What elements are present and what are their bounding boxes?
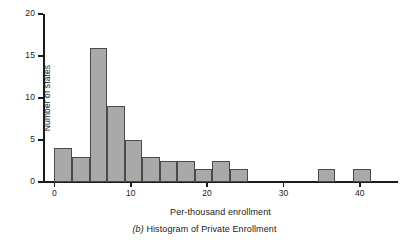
x-tick-label: 30 <box>271 189 295 198</box>
histogram-bar <box>195 169 213 182</box>
y-tick-label: 0 <box>13 177 35 186</box>
y-tick-label: 5 <box>13 135 35 144</box>
y-tick-label: 15 <box>13 51 35 60</box>
histogram-bar <box>107 106 125 182</box>
histogram-bar <box>230 169 248 182</box>
x-tick-mark <box>130 182 132 187</box>
histogram-bar <box>125 140 143 182</box>
y-tick-label: 10 <box>13 93 35 102</box>
histogram-bar <box>72 157 90 182</box>
x-tick-mark <box>206 182 208 187</box>
y-tick-label: 20 <box>13 9 35 18</box>
x-tick-label: 0 <box>42 189 66 198</box>
plot-area: 05101520 010203040 Number of states Per-… <box>43 14 398 182</box>
x-tick-label: 20 <box>195 189 219 198</box>
histogram-bar <box>353 169 371 182</box>
histogram-bar <box>318 169 336 182</box>
histogram-bar <box>90 48 108 182</box>
x-tick-label: 10 <box>119 189 143 198</box>
y-axis-title: Number of states <box>41 14 53 182</box>
x-tick-mark <box>283 182 285 187</box>
x-tick-mark <box>54 182 56 187</box>
x-tick-label: 40 <box>348 189 372 198</box>
histogram-bar <box>54 148 72 182</box>
caption-text: Histogram of Private Enrollment <box>146 224 276 234</box>
histogram-figure: 05101520 010203040 Number of states Per-… <box>0 0 409 243</box>
x-tick-mark <box>359 182 361 187</box>
histogram-bar <box>160 161 178 182</box>
histogram-bar <box>177 161 195 182</box>
caption-panel-letter: (b) <box>132 224 143 234</box>
x-axis-title: Per-thousand enrollment <box>43 207 398 218</box>
figure-caption: (b) Histogram of Private Enrollment <box>0 224 409 235</box>
histogram-bar <box>212 161 230 182</box>
histogram-bar <box>142 157 160 182</box>
